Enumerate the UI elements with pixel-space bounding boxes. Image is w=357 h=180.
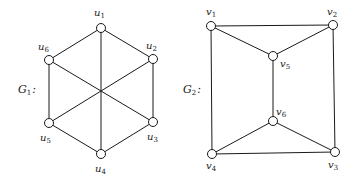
vertex-v6: [269, 117, 278, 126]
graph-g1: u1u2u3u4u5u6G1:: [18, 7, 158, 176]
edge-v2-v3: [333, 25, 335, 152]
edge-v1-v5: [211, 26, 273, 56]
vertex-label-v3: v3: [328, 159, 338, 172]
graph-label-g1: G1:: [18, 83, 36, 97]
vertex-u4: [97, 150, 106, 159]
vertex-label-u4: u4: [95, 163, 106, 176]
vertex-label-u1: u1: [94, 7, 105, 20]
edge-v6-v4: [212, 121, 273, 154]
vertex-v3: [331, 148, 340, 157]
vertex-label-u5: u5: [40, 132, 51, 145]
vertex-u1: [97, 24, 106, 33]
edge-v4-v1: [211, 26, 212, 154]
edge-v1-v2: [211, 25, 333, 26]
vertex-v4: [208, 150, 217, 159]
graph-diagram: u1u2u3u4u5u6G1: v1v2v3v4v5v6G2:: [0, 0, 357, 180]
vertex-u6: [45, 56, 54, 65]
edge-v6-v3: [273, 121, 335, 152]
vertex-label-u3: u3: [147, 131, 158, 144]
edge-u6-u1: [49, 28, 101, 60]
edge-v3-v4: [212, 152, 335, 154]
vertex-label-v1: v1: [206, 6, 216, 19]
vertex-u3: [149, 118, 158, 127]
edge-v2-v5: [273, 25, 333, 56]
vertex-u5: [45, 119, 54, 128]
graph-label-g2: G2:: [183, 83, 201, 97]
vertex-label-v5: v5: [280, 58, 290, 71]
vertex-label-u2: u2: [146, 40, 157, 53]
vertex-label-v4: v4: [206, 160, 217, 173]
vertex-v1: [207, 22, 216, 31]
vertex-v5: [269, 52, 278, 61]
vertex-label-v6: v6: [276, 106, 287, 119]
vertex-label-v2: v2: [327, 6, 337, 19]
edge-u4-u5: [49, 123, 101, 154]
graph-g2: v1v2v3v4v5v6G2:: [183, 6, 340, 173]
edge-u3-u4: [101, 122, 153, 154]
vertex-v2: [329, 21, 338, 30]
vertex-label-u6: u6: [38, 41, 49, 54]
vertex-u2: [149, 55, 158, 64]
